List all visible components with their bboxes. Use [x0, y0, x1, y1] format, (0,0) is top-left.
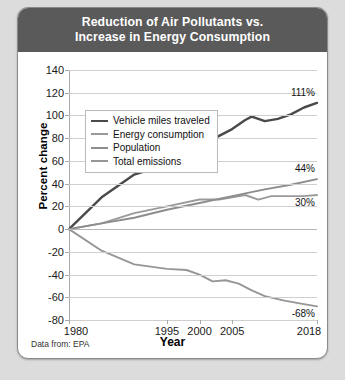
gridline — [69, 252, 317, 253]
y-tick-mark — [65, 115, 69, 116]
y-tick-mark — [65, 161, 69, 162]
y-tick-mark — [65, 229, 69, 230]
gridline — [69, 184, 317, 185]
y-tick-label: -20 — [48, 246, 64, 258]
legend-label: Vehicle miles traveled — [113, 115, 210, 126]
legend-label: Energy consumption — [113, 129, 204, 140]
gridline — [69, 320, 317, 321]
x-tick-mark — [232, 320, 233, 324]
chart-card: Reduction of Air Pollutants vs. Increase… — [17, 7, 328, 359]
y-tick-mark — [65, 70, 69, 71]
y-tick-label: 80 — [52, 132, 64, 144]
chart-legend: Vehicle miles traveled Energy consumptio… — [85, 110, 218, 173]
y-tick-mark — [65, 252, 69, 253]
legend-item-population[interactable]: Population — [91, 141, 210, 155]
plot-axes: 140120100806040200-20-40-60-801980199520… — [69, 70, 317, 320]
y-tick-mark — [65, 275, 69, 276]
gridline — [69, 206, 317, 207]
gridline — [69, 275, 317, 276]
y-tick-label: 0 — [58, 223, 64, 235]
y-tick-label: 60 — [52, 155, 64, 167]
x-tick-mark — [200, 320, 201, 324]
y-tick-label: -40 — [48, 269, 64, 281]
y-tick-mark — [65, 138, 69, 139]
data-label: 111% — [291, 86, 315, 97]
y-tick-label: 140 — [46, 64, 64, 76]
data-label: 44% — [295, 163, 315, 174]
y-tick-label: 120 — [46, 87, 64, 99]
legend-label: Population — [113, 142, 160, 153]
x-tick-mark — [167, 320, 168, 324]
chart-title-line-2: Increase in Energy Consumption — [75, 30, 270, 46]
gridline — [69, 70, 317, 71]
chart-title-bar: Reduction of Air Pollutants vs. Increase… — [18, 8, 327, 52]
line-swatch-icon — [91, 160, 108, 162]
gridline — [69, 229, 317, 230]
gridline — [69, 93, 317, 94]
data-label: -68% — [292, 308, 315, 319]
y-axis-title: Percent change — [37, 106, 49, 226]
series-lines — [69, 70, 317, 320]
legend-label: Total emissions — [113, 156, 181, 167]
source-note: Data from: EPA — [31, 339, 89, 349]
legend-item-total-emissions[interactable]: Total emissions — [91, 155, 210, 169]
page-background: Reduction of Air Pollutants vs. Increase… — [0, 0, 345, 380]
x-tick-mark — [317, 320, 318, 324]
y-tick-mark — [65, 184, 69, 185]
y-tick-mark — [65, 93, 69, 94]
series-line-total-emissions — [69, 229, 317, 306]
y-tick-label: 20 — [52, 200, 64, 212]
y-tick-mark — [65, 297, 69, 298]
x-tick-mark — [69, 320, 70, 324]
line-swatch-icon — [91, 120, 108, 122]
legend-item-energy-consumption[interactable]: Energy consumption — [91, 128, 210, 142]
legend-item-vehicle-miles-traveled[interactable]: Vehicle miles traveled — [91, 114, 210, 128]
data-label: 30% — [295, 197, 315, 208]
line-swatch-icon — [91, 147, 108, 149]
y-tick-label: -60 — [48, 291, 64, 303]
y-tick-label: 100 — [46, 109, 64, 121]
plot-region: Percent change 140120100806040200-20-40-… — [18, 52, 327, 359]
line-swatch-icon — [91, 133, 108, 135]
chart-title-line-1: Reduction of Air Pollutants vs. — [82, 15, 264, 31]
gridline — [69, 297, 317, 298]
y-tick-label: -80 — [48, 314, 64, 326]
y-tick-label: 40 — [52, 178, 64, 190]
series-line-energy-consumption — [69, 195, 317, 229]
y-tick-mark — [65, 206, 69, 207]
